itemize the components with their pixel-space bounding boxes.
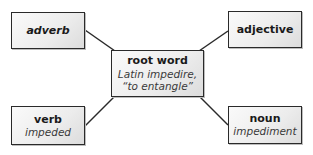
adjective-box: adjective — [228, 11, 302, 48]
noun-value: impediment — [233, 125, 296, 138]
adjective-title: adjective — [237, 23, 294, 36]
root-word-title: root word — [127, 54, 188, 67]
adverb-title: adverb — [26, 24, 69, 37]
verb-value: impeded — [25, 126, 71, 139]
verb-box: verb impeded — [11, 106, 85, 145]
verb-title: verb — [34, 113, 62, 126]
root-word-box: root word Latin impedire, “to entangle” — [111, 50, 204, 97]
word-map-diagram: adverb adjective root word Latin impedir… — [0, 0, 313, 155]
adverb-box: adverb — [11, 12, 85, 49]
connector-adjective-root — [199, 31, 228, 51]
noun-title: noun — [249, 112, 280, 125]
root-word-meaning: “to entangle” — [122, 80, 193, 93]
connector-noun-root — [199, 96, 228, 125]
noun-box: noun impediment — [228, 106, 302, 144]
root-word-origin: Latin impedire, — [118, 68, 197, 81]
connector-verb-root — [85, 96, 115, 126]
connector-adverb-root — [85, 30, 115, 51]
